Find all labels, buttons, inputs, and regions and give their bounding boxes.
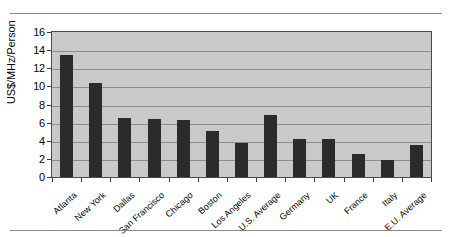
x-axis-tick-mark xyxy=(431,178,432,182)
y-axis-tick-label: 14 xyxy=(33,45,45,56)
bar xyxy=(352,154,365,177)
bar xyxy=(381,160,394,177)
bar xyxy=(235,143,248,177)
y-axis-tick-mark xyxy=(47,32,51,33)
y-axis-tick-label: 2 xyxy=(39,153,45,164)
top-divider-rule xyxy=(10,13,442,14)
x-axis-tick-mark xyxy=(256,178,257,182)
x-axis: AtlantaNew YorkDallasSan FranciscoChicag… xyxy=(52,178,431,234)
bar xyxy=(177,120,190,177)
x-axis-tick-label: Atlanta xyxy=(51,190,79,216)
bar xyxy=(410,145,423,177)
y-axis-tick-label: 10 xyxy=(33,81,45,92)
x-axis-tick-mark xyxy=(314,178,315,182)
bar xyxy=(89,83,102,177)
y-axis-title: US$/MHz/Person xyxy=(6,20,17,104)
x-axis-tick-mark xyxy=(285,178,286,182)
x-axis-tick-mark xyxy=(344,178,345,182)
bottom-divider-rule xyxy=(10,230,442,231)
y-axis-tick-mark xyxy=(47,159,51,160)
x-axis-tick-mark xyxy=(81,178,82,182)
y-axis-tick-mark xyxy=(47,105,51,106)
bar xyxy=(118,118,131,177)
x-axis-tick-mark xyxy=(198,178,199,182)
x-axis-tick-mark xyxy=(227,178,228,182)
x-axis-tick-mark xyxy=(373,178,374,182)
x-axis-tick-label: Germany xyxy=(277,190,311,222)
y-axis-tick-mark xyxy=(47,50,51,51)
y-axis-tick-label: 16 xyxy=(33,27,45,38)
x-axis-tick-label: Chicago xyxy=(164,190,195,220)
y-axis-tick-mark xyxy=(47,68,51,69)
x-axis-tick-mark xyxy=(52,178,53,182)
bar xyxy=(148,119,161,177)
y-axis-tick-label: 8 xyxy=(39,99,45,110)
x-axis-tick-mark xyxy=(402,178,403,182)
x-axis-tick-label: New York xyxy=(72,190,107,223)
y-axis-tick-mark xyxy=(47,177,51,178)
y-axis-tick-mark xyxy=(47,123,51,124)
x-axis-tick-mark xyxy=(169,178,170,182)
bars-layer xyxy=(52,32,431,177)
bar xyxy=(293,139,306,177)
bar xyxy=(60,55,73,177)
x-axis-tick-label: Italy xyxy=(380,190,399,208)
x-axis-tick-mark xyxy=(139,178,140,182)
bar xyxy=(206,131,219,177)
y-axis-tick-label: 4 xyxy=(39,135,45,146)
x-axis-tick-label: Dallas xyxy=(111,190,136,214)
y-axis-tick-mark xyxy=(47,86,51,87)
bar-chart-figure: 0246810121416 US$/MHz/Person AtlantaNew … xyxy=(0,0,452,237)
x-axis-tick-label: France xyxy=(342,190,370,216)
y-axis-tick-label: 0 xyxy=(39,172,45,183)
y-axis-tick-label: 12 xyxy=(33,63,45,74)
bar xyxy=(264,115,277,177)
bar xyxy=(322,139,335,177)
y-axis-tick-mark xyxy=(47,141,51,142)
x-axis-tick-label: UK xyxy=(325,190,341,206)
y-axis-tick-label: 6 xyxy=(39,117,45,128)
x-axis-tick-mark xyxy=(110,178,111,182)
